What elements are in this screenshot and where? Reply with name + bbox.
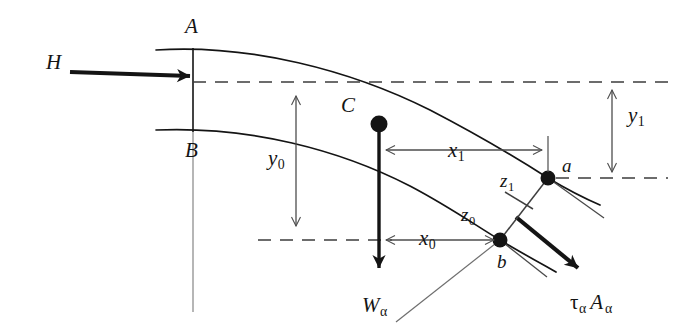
label-y0-base: y — [268, 146, 277, 170]
label-z1-sub: 1 — [507, 180, 514, 194]
label-area-symbol: A — [586, 290, 603, 314]
point-C-dot — [371, 116, 388, 133]
force-H-arrow — [70, 72, 190, 76]
force-W-arrow — [371, 116, 388, 269]
label-W-alpha: Wα — [362, 295, 387, 316]
label-tau-sub: α — [578, 301, 586, 316]
slice-force-diagram: H A B C a b y0 y1 x0 x1 z0 z1 Wα ταAα — [0, 0, 686, 330]
label-tau-alpha-A-alpha: ταAα — [570, 292, 612, 313]
label-H: H — [46, 52, 61, 73]
label-x1: x1 — [448, 140, 465, 161]
line-through-b-short — [500, 240, 547, 277]
point-b-dot — [493, 233, 508, 248]
dimension-x1 — [386, 136, 548, 172]
label-z0-sub: 0 — [468, 214, 475, 228]
datum-lines — [193, 82, 676, 240]
label-z1: z1 — [500, 171, 514, 190]
label-point-a: a — [562, 156, 572, 175]
label-y0: y0 — [268, 148, 285, 169]
label-y1-sub: 1 — [637, 114, 644, 129]
diagram-canvas — [0, 0, 686, 330]
label-x1-sub: 1 — [457, 149, 464, 164]
label-x0-base: x — [419, 226, 428, 250]
z-tick-mark — [505, 192, 533, 209]
label-point-b: b — [497, 252, 507, 271]
label-y1-base: y — [628, 103, 637, 127]
label-A: A — [185, 16, 198, 37]
point-a-dot — [541, 171, 556, 186]
label-area-sub: α — [603, 301, 612, 316]
label-x1-base: x — [448, 138, 457, 162]
label-x0-sub: 0 — [428, 237, 435, 252]
label-W-base: W — [362, 293, 380, 317]
label-C: C — [341, 95, 355, 116]
line-through-a — [548, 178, 604, 218]
label-x0: x0 — [419, 228, 436, 249]
label-y1: y1 — [628, 105, 645, 126]
label-B: B — [185, 140, 198, 161]
lower-boundary-curve — [156, 130, 556, 272]
line-through-b-long — [396, 240, 500, 322]
label-W-sub: α — [380, 304, 388, 319]
label-y0-sub: 0 — [277, 157, 284, 172]
label-z0: z0 — [461, 205, 475, 224]
